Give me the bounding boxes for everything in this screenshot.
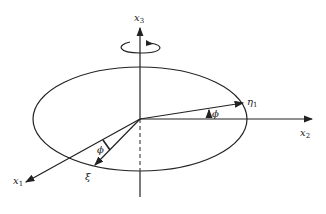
x3-label: x3 [134,12,144,25]
phi-label-upper: ϕ [212,108,219,119]
x1-label: x1 [13,175,23,188]
diagram-canvas: x3 x2 x1 η1 ξ ϕ ϕ [0,0,326,214]
x2-label: x2 [300,127,310,140]
eta1-vector [140,103,243,119]
xi-vector [95,119,140,165]
xi-label: ξ [85,171,91,182]
eta1-label: η1 [247,96,257,109]
phi-angle-marker-lower [103,140,110,150]
x1-axis [26,119,140,182]
phi-label-lower: ϕ [97,144,104,155]
